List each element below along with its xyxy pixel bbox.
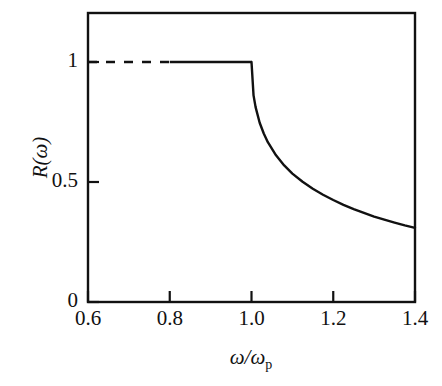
drude-decay-curve [252, 62, 416, 228]
data-curves [88, 62, 415, 228]
reflectivity-chart-figure: 0.6 0.8 1.0 1.2 1.4 0 0.5 1 R(ω) ω/ωp [0, 0, 442, 386]
xtick-label-3: 1.2 [320, 306, 346, 331]
xtick-label-2: 1.0 [238, 306, 264, 331]
y-axis-ticks [88, 62, 99, 302]
ytick-label-2: 1 [68, 48, 79, 73]
xtick-label-4: 1.4 [402, 306, 428, 331]
x-axis-ticks [88, 291, 415, 302]
y-axis-title: R(ω) [28, 128, 53, 188]
x-axis-title-main: ω/ω [230, 345, 266, 369]
x-axis-title-subscript: p [265, 357, 272, 372]
ytick-label-1: 0.5 [52, 168, 78, 193]
xtick-label-1: 0.8 [157, 306, 183, 331]
ytick-label-0: 0 [68, 288, 79, 313]
axes-frame [88, 13, 415, 302]
x-axis-title: ω/ωp [230, 345, 273, 373]
xtick-label-0: 0.6 [75, 306, 101, 331]
